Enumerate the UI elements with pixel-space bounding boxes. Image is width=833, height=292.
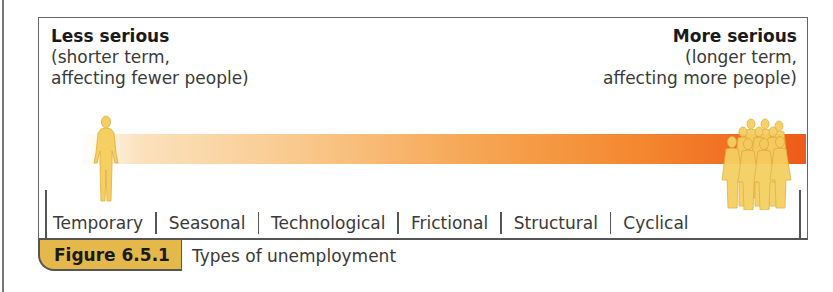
more-serious-label: More serious (longer term, affecting mor… [603, 26, 797, 89]
less-serious-desc-line1: (shorter term, [51, 47, 249, 68]
type-divider [155, 212, 157, 234]
page-edge-line [2, 0, 4, 292]
more-serious-desc-line2: affecting more people) [603, 68, 797, 89]
figure-box: Less serious (shorter term, affecting fe… [38, 17, 808, 240]
type-temporary: Temporary [53, 213, 143, 233]
type-divider [500, 212, 502, 234]
less-serious-title: Less serious [51, 26, 249, 47]
figure-caption-text: Types of unemployment [181, 240, 396, 271]
type-structural: Structural [514, 213, 598, 233]
type-seasonal: Seasonal [169, 213, 246, 233]
figure-number-tag: Figure 6.5.1 [38, 240, 181, 271]
type-divider [258, 212, 260, 234]
scale-left-end-tick [45, 190, 47, 238]
scale-right-end-tick [799, 190, 801, 238]
unemployment-type-scale: Temporary Seasonal Technological Frictio… [39, 168, 807, 238]
type-technological: Technological [271, 213, 385, 233]
more-serious-title: More serious [603, 26, 797, 47]
type-frictional: Frictional [411, 213, 488, 233]
type-cyclical: Cyclical [623, 213, 688, 233]
unemployment-types-row: Temporary Seasonal Technological Frictio… [53, 212, 793, 234]
severity-gradient-bar [81, 134, 806, 164]
type-divider [610, 212, 612, 234]
type-divider [397, 212, 399, 234]
more-serious-desc-line1: (longer term, [603, 47, 797, 68]
less-serious-desc-line2: affecting fewer people) [51, 68, 249, 89]
figure-caption: Figure 6.5.1 Types of unemployment [38, 240, 396, 271]
less-serious-label: Less serious (shorter term, affecting fe… [51, 26, 249, 89]
